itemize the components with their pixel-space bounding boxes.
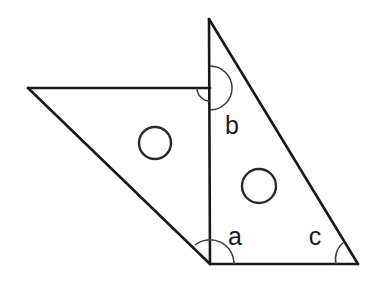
triangle-vertical-side bbox=[209, 19, 210, 264]
angle-label-c: c bbox=[309, 222, 322, 250]
angle-label-a: a bbox=[228, 222, 242, 250]
angle-label-b: b bbox=[225, 111, 239, 139]
geometry-figure-svg: b a c bbox=[0, 0, 372, 284]
geometry-figure-canvas: b a c bbox=[0, 0, 372, 284]
